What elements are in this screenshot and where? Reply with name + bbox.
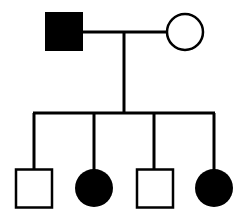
- mother-unaffected-female-circle: [167, 14, 203, 50]
- child-2-affected-female-circle: [75, 169, 113, 207]
- child-3-unaffected-male-square: [137, 170, 173, 208]
- child-4-affected-female-circle: [195, 169, 233, 207]
- pedigree-chart: [0, 0, 247, 220]
- child-1-unaffected-male-square: [16, 170, 52, 208]
- father-affected-male-square: [45, 12, 83, 51]
